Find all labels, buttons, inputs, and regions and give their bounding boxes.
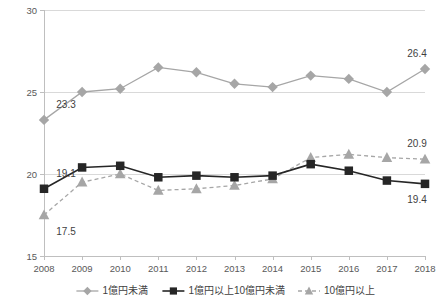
x-axis-label-2014: 2014	[262, 263, 283, 274]
series-1-line	[44, 67, 425, 119]
legend-item-2[interactable]: 1億円以上10億円未満	[162, 284, 285, 296]
legend-item-2-label: 1億円以上10億円未満	[188, 284, 285, 296]
legend-item-3[interactable]: 10億円以上	[298, 284, 375, 296]
legend-item-1-marker-swatch	[83, 287, 91, 295]
series-3-data-label-10: 20.9	[407, 138, 427, 149]
x-axis-label-2016: 2016	[338, 263, 359, 274]
series-3-marker-4	[191, 183, 202, 193]
legend-item-1[interactable]: 1億円未満	[76, 284, 148, 296]
series-1-marker-8	[344, 74, 354, 84]
chart-canvas: 1520253020082009201020112012201320142015…	[0, 0, 442, 306]
x-axis-label-2012: 2012	[186, 263, 207, 274]
y-axis-label-15: 15	[26, 251, 37, 262]
x-axis-label-2017: 2017	[376, 263, 397, 274]
y-axis-label-20: 20	[26, 169, 37, 180]
series-2-marker-6	[268, 171, 277, 180]
series-2-marker-8	[345, 166, 354, 175]
legend-item-2-marker-swatch	[170, 287, 177, 294]
x-axis-label-2011: 2011	[148, 263, 168, 274]
x-axis-label-2010: 2010	[110, 263, 131, 274]
series-3-marker-0	[39, 209, 50, 219]
series-1-marker-4	[191, 67, 201, 77]
line-chart: 1520253020082009201020112012201320142015…	[0, 0, 442, 306]
series-1-marker-9	[382, 87, 392, 97]
series-2-marker-2	[116, 162, 125, 171]
series-1-marker-1	[77, 87, 87, 97]
series-3-data-label-0: 17.5	[56, 226, 76, 237]
y-axis-label-30: 30	[26, 5, 37, 16]
series-1-marker-7	[306, 70, 316, 80]
series-2-marker-7	[306, 160, 315, 169]
x-axis-label-2008: 2008	[33, 263, 54, 274]
x-axis-label-2015: 2015	[300, 263, 321, 274]
series-1-data-label-10: 26.4	[407, 48, 427, 59]
series-2-marker-9	[383, 176, 392, 185]
x-axis-label-2018: 2018	[414, 263, 435, 274]
series-1-marker-3	[153, 62, 163, 72]
series-3-marker-9	[382, 152, 393, 162]
series-1-marker-10	[420, 64, 430, 74]
legend-item-1-label: 1億円未満	[102, 284, 148, 296]
series-1-marker-5	[229, 79, 239, 89]
series-3-marker-8	[343, 149, 354, 159]
series-1-marker-6	[267, 82, 277, 92]
series-2-marker-10	[421, 180, 430, 189]
legend-item-3-label: 10億円以上	[324, 284, 375, 296]
series-2-data-label-10: 19.4	[407, 194, 427, 205]
series-2-marker-4	[192, 171, 201, 180]
x-axis-label-2013: 2013	[224, 263, 245, 274]
series-2-marker-5	[230, 173, 239, 182]
series-1-data-label-0: 23.3	[56, 99, 76, 110]
series-2-data-label-0: 19.1	[56, 168, 76, 179]
series-2-marker-3	[154, 173, 163, 182]
series-1-marker-0	[39, 115, 49, 125]
y-axis-label-25: 25	[26, 87, 37, 98]
series-3-marker-1	[77, 177, 88, 187]
series-2-marker-1	[78, 163, 87, 172]
series-2-marker-0	[40, 185, 49, 194]
x-axis-label-2009: 2009	[72, 263, 93, 274]
